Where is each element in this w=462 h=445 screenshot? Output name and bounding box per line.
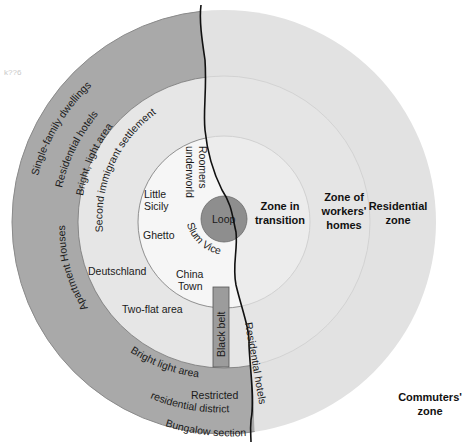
commuters-zone-label-1: Commuters' bbox=[398, 391, 462, 403]
zone-in-transition-label-1: Zone in bbox=[260, 200, 299, 212]
restricted-district-label-1: Restricted bbox=[191, 389, 238, 401]
china-town-label-2: Town bbox=[178, 280, 203, 292]
underworld-label: underworld bbox=[184, 146, 196, 198]
black-belt-label: Black belt bbox=[215, 311, 227, 357]
deutschland-label: Deutschland bbox=[88, 265, 147, 277]
residential-zone-label-2: zone bbox=[385, 214, 410, 226]
little-sicily-label-1: Little bbox=[144, 188, 166, 200]
workers-zone-label-1: Zone of bbox=[324, 191, 364, 203]
concentric-zone-diagram: Black belt Loop Zone in transition Zone … bbox=[0, 0, 462, 445]
ghetto-label: Ghetto bbox=[143, 229, 175, 241]
zone-in-transition-label-2: transition bbox=[255, 214, 305, 226]
corner-mark: k??6 bbox=[4, 68, 22, 77]
workers-zone-label-2: workers' bbox=[321, 205, 367, 217]
roomers-label: Roomers bbox=[197, 146, 209, 189]
two-flat-area-label: Two-flat area bbox=[122, 303, 183, 315]
workers-zone-label-3: homes bbox=[326, 219, 361, 231]
residential-zone-label-1: Residential bbox=[369, 200, 428, 212]
little-sicily-label-2: Sicily bbox=[144, 200, 169, 212]
commuters-zone-label-2: zone bbox=[417, 405, 442, 417]
china-town-label-1: China bbox=[176, 268, 204, 280]
